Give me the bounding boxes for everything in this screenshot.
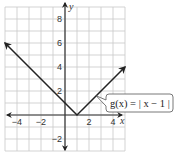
x-tick-label: −2 <box>36 117 46 127</box>
x-tick-label: 2 <box>86 117 91 127</box>
function-label-callout: g(x) = | x − 1 | <box>96 94 173 112</box>
function-label: g(x) = | x − 1 | <box>110 98 170 110</box>
y-tick-label: −2 <box>52 134 62 144</box>
y-axis-label: y <box>68 1 74 12</box>
y-tick-label: 6 <box>57 38 62 48</box>
chart: xy −4−224−22468 g(x) = | x − 1 | <box>0 0 175 154</box>
x-tick-label: −4 <box>12 117 22 127</box>
y-tick-label: 2 <box>57 86 62 96</box>
y-tick-label: 8 <box>57 14 62 24</box>
y-tick-label: 4 <box>57 62 62 72</box>
x-tick-label: 4 <box>110 117 115 127</box>
axes: xy <box>7 1 125 150</box>
x-axis-label: x <box>119 115 125 126</box>
